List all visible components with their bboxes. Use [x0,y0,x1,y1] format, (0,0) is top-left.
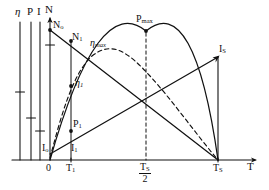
axis-label-eta: η [15,6,20,17]
axis-label-I: I [37,6,41,17]
curve-plot [0,0,269,190]
point-label-N1: N1 [72,32,83,43]
xtick-label-Ts: TS [213,163,223,174]
axis-label-N: N [45,4,53,15]
curve-I [50,57,218,154]
curve-N [50,30,218,160]
point-label-eta-1: η1 [75,78,83,89]
point-label-I0: Io [42,143,49,154]
xtick-label-T1: T1 [66,163,75,174]
marker-N0 [48,28,52,32]
axis-label-P: P [27,6,33,17]
marker-Pmax [144,29,148,33]
xtick-label-ts-half: TS 2 [139,162,151,184]
point-label-IS: IS [219,44,226,55]
figure-canvas: η P I N No N1 ηmax η1 Pmax P1 Io I1 IS 0… [0,0,269,190]
point-label-P1: P1 [73,119,82,130]
point-label-eta-max: ηmax [90,38,106,49]
xtick-label-origin: 0 [46,163,51,173]
axis-label-T: T [247,161,254,172]
point-label-N0: No [53,20,64,31]
point-label-P-max: Pmax [136,14,153,25]
point-label-I1: I1 [71,143,78,154]
marker-eta1 [69,84,73,88]
